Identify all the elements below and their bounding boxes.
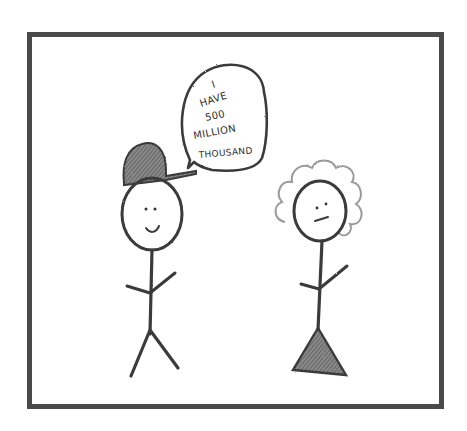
bubble-line-1: I	[210, 78, 216, 89]
boy-eye-left	[145, 208, 148, 211]
boy-head	[122, 178, 182, 250]
girl-figure	[276, 161, 362, 376]
bubble-line-5: THOUSAND	[197, 145, 253, 160]
boy-legs	[131, 330, 178, 376]
smile-face-icon	[146, 226, 159, 232]
curly-hair-icon	[276, 161, 362, 236]
neutral-face-icon	[315, 217, 328, 221]
bubble-line-2: HAVE	[198, 90, 228, 109]
bubble-line-3: 500	[204, 108, 226, 123]
girl-arms	[301, 266, 347, 289]
boy-figure	[122, 143, 196, 376]
girl-head	[294, 181, 346, 241]
girl-eye-left	[316, 207, 319, 210]
boy-eye-right	[154, 208, 157, 211]
triangle-dress	[293, 328, 346, 375]
girl-eye-right	[325, 203, 328, 206]
bubble-line-4: MILLION	[192, 123, 236, 141]
speech-bubble-text: I HAVE 500 MILLION THOUSAND	[192, 78, 253, 160]
comic-drawing: I HAVE 500 MILLION THOUSAND	[0, 0, 467, 431]
